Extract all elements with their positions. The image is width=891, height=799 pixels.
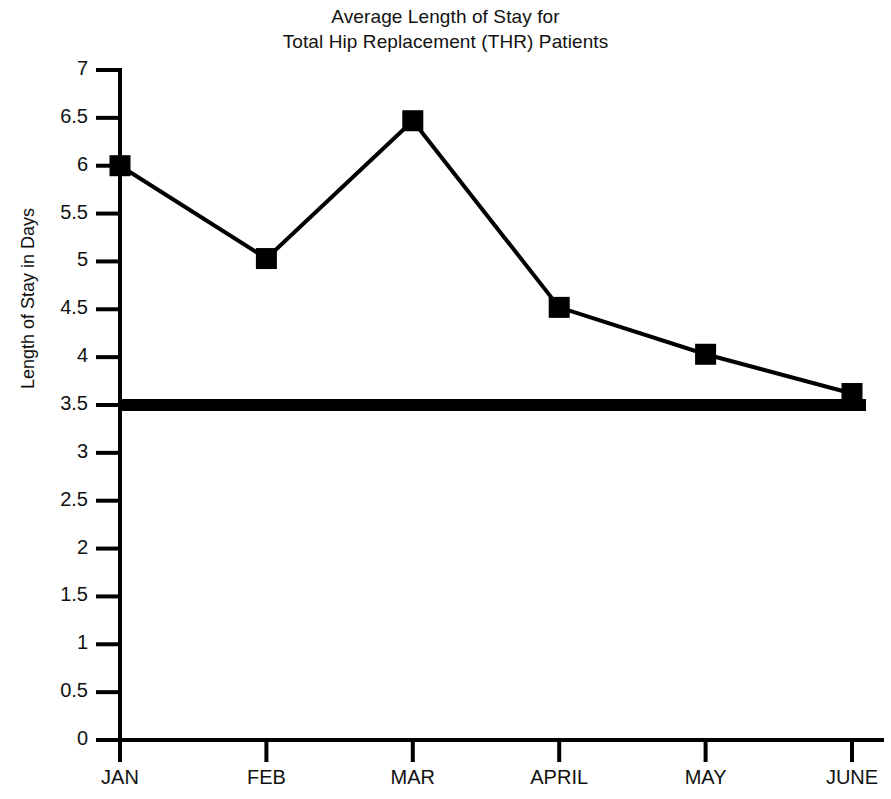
x-tick-marks <box>120 740 852 762</box>
y-tick-label: 1 <box>28 631 88 654</box>
y-tick-label: 4 <box>28 344 88 367</box>
y-tick-label: 5 <box>28 248 88 271</box>
y-tick-label: 7 <box>28 57 88 80</box>
y-tick-label: 2 <box>28 536 88 559</box>
y-tick-label: 1.5 <box>28 583 88 606</box>
data-point-marker <box>695 344 716 365</box>
data-point-marker <box>256 248 277 269</box>
data-point-marker <box>110 155 131 176</box>
data-series-line <box>120 121 852 394</box>
y-tick-label: 0 <box>28 727 88 750</box>
x-tick-label: JAN <box>50 766 190 789</box>
y-tick-label: 5.5 <box>28 201 88 224</box>
x-tick-label: MAR <box>343 766 483 789</box>
x-tick-label: APRIL <box>489 766 629 789</box>
y-tick-label: 6 <box>28 153 88 176</box>
y-tick-label: 0.5 <box>28 679 88 702</box>
x-tick-label: FEB <box>196 766 336 789</box>
series-polyline <box>120 121 852 394</box>
y-tick-label: 4.5 <box>28 296 88 319</box>
plot-area: 76.565.554.543.532.521.510.50 JANFEBMARA… <box>0 0 891 799</box>
y-tick-label: 2.5 <box>28 488 88 511</box>
data-point-markers <box>110 110 863 404</box>
x-tick-label: JUNE <box>782 766 891 789</box>
data-point-marker <box>549 297 570 318</box>
chart-page: Average Length of Stay for Total Hip Rep… <box>0 0 891 799</box>
x-tick-label: MAY <box>636 766 776 789</box>
y-tick-label: 3 <box>28 440 88 463</box>
y-tick-label: 6.5 <box>28 105 88 128</box>
chart-svg <box>0 0 891 799</box>
data-point-marker <box>842 383 863 404</box>
data-point-marker <box>402 110 423 131</box>
y-tick-label: 3.5 <box>28 392 88 415</box>
